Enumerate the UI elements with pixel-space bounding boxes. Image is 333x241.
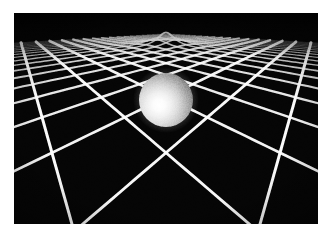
scene-canvas bbox=[14, 13, 318, 224]
spacetime-scene bbox=[14, 13, 318, 224]
horizon-fade bbox=[14, 13, 318, 57]
figure-root bbox=[0, 0, 333, 241]
